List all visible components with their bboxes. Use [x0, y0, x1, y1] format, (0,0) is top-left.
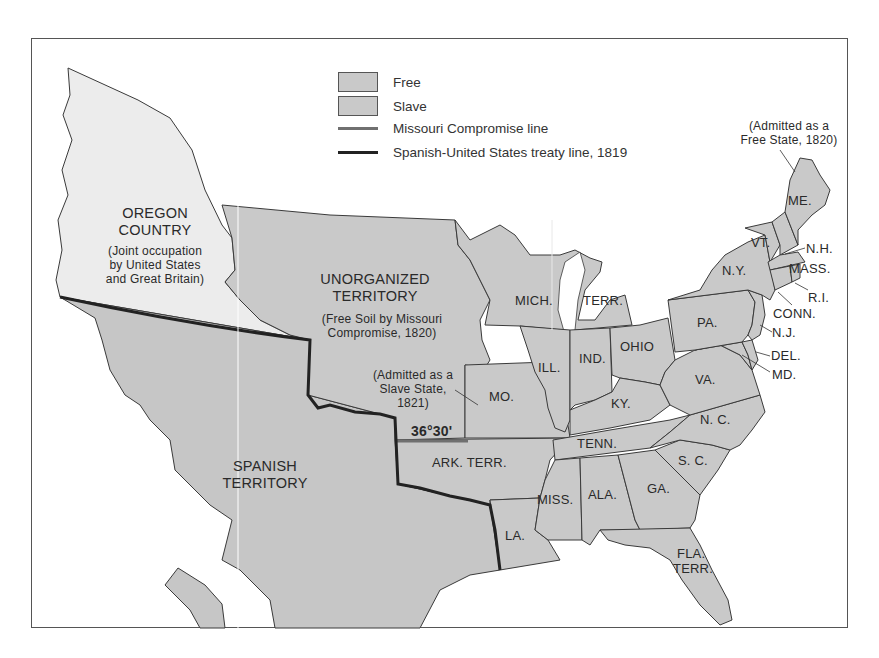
state-label-connecticut: CONN.	[773, 306, 816, 321]
latitude-label: 36°30'	[411, 424, 452, 439]
state-label-illinois: ILL.	[538, 360, 560, 375]
oregon-note-1: (Joint occupation	[93, 244, 217, 258]
missouri-note-2: Slave State,	[368, 382, 458, 396]
legend-label-missouri-line: Missouri Compromise line	[393, 121, 548, 136]
legend-label-slave: Slave	[393, 99, 427, 114]
label-unorganized-note: (Free Soil by Missouri Compromise, 1820)	[312, 312, 452, 340]
state-label-florida-1: FLA.	[677, 546, 705, 561]
unorganized-name-2: TERRITORY	[310, 288, 440, 305]
annotation-missouri-admitted: (Admitted as a Slave State, 1821)	[368, 368, 458, 410]
state-label-florida-2: TERR.	[673, 561, 713, 576]
oregon-name-1: OREGON	[100, 205, 210, 222]
state-label-michigan-1: MICH.	[515, 293, 553, 308]
state-label-louisiana: LA.	[505, 528, 525, 543]
state-label-south-carolina: S. C.	[678, 453, 708, 468]
state-label-tennessee: TENN.	[577, 436, 617, 451]
state-label-rhode-island: R.I.	[808, 290, 829, 305]
state-label-arkansas-territory: ARK. TERR.	[432, 455, 507, 470]
legend-item-free: Free	[338, 72, 421, 92]
state-label-vermont: VT.	[751, 235, 770, 250]
leader-del	[756, 352, 770, 356]
leader-maine	[780, 150, 795, 172]
state-label-alabama: ALA.	[588, 487, 617, 502]
oregon-note-3: and Great Britain)	[93, 272, 217, 286]
leader-ri	[795, 283, 808, 290]
state-label-indiana: IND.	[579, 351, 606, 366]
oregon-name-2: COUNTRY	[100, 222, 210, 239]
state-label-maine: ME.	[788, 193, 812, 208]
label-oregon-note: (Joint occupation by United States and G…	[93, 244, 217, 286]
state-label-virginia: VA.	[695, 372, 716, 387]
state-label-new-york: N.Y.	[722, 263, 746, 278]
legend-item-missouri-line: Missouri Compromise line	[338, 121, 548, 136]
maine-note-2: Free State, 1820)	[734, 133, 844, 147]
leader-conn	[778, 292, 792, 305]
state-label-georgia: GA.	[647, 481, 670, 496]
state-label-new-hampshire: N.H.	[806, 241, 833, 256]
spanish-name-1: SPANISH	[210, 458, 320, 475]
unorganized-note-1: (Free Soil by Missouri	[312, 312, 452, 326]
state-label-michigan-2: TERR.	[583, 293, 623, 308]
state-label-maryland: MD.	[772, 367, 796, 382]
state-label-mississippi: MISS.	[537, 492, 573, 507]
label-unorganized-territory: UNORGANIZED TERRITORY	[310, 271, 440, 305]
slave-swatch	[338, 96, 378, 116]
state-label-north-carolina: N. C.	[700, 412, 731, 427]
annotation-maine-admitted: (Admitted as a Free State, 1820)	[734, 119, 844, 147]
legend-label-treaty-line: Spanish-United States treaty line, 1819	[393, 145, 627, 160]
legend-label-free: Free	[393, 75, 421, 90]
missouri-line-swatch	[338, 127, 378, 130]
state-label-delaware: DEL.	[771, 348, 801, 363]
spanish-name-2: TERRITORY	[210, 475, 320, 492]
unorganized-note-2: Compromise, 1820)	[312, 326, 452, 340]
region-baja	[165, 568, 225, 628]
state-label-pennsylvania: PA.	[697, 315, 718, 330]
state-label-ohio: OHIO	[620, 339, 654, 354]
legend-item-slave: Slave	[338, 96, 427, 116]
label-oregon-country: OREGON COUNTRY	[100, 205, 210, 239]
treaty-line-swatch	[338, 151, 378, 154]
oregon-note-2: by United States	[93, 258, 217, 272]
state-label-missouri: MO.	[489, 389, 514, 404]
region-florida-territory	[600, 528, 732, 625]
state-label-new-jersey: N.J.	[772, 325, 796, 340]
state-label-massachusetts: MASS.	[789, 261, 830, 276]
free-swatch	[338, 72, 378, 92]
maine-note-1: (Admitted as a	[734, 119, 844, 133]
label-spanish-territory: SPANISH TERRITORY	[210, 458, 320, 492]
missouri-note-3: 1821)	[368, 396, 458, 410]
unorganized-name-1: UNORGANIZED	[310, 271, 440, 288]
state-label-kentucky: KY.	[611, 396, 631, 411]
legend-item-treaty-line: Spanish-United States treaty line, 1819	[338, 145, 627, 160]
missouri-note-1: (Admitted as a	[368, 368, 458, 382]
